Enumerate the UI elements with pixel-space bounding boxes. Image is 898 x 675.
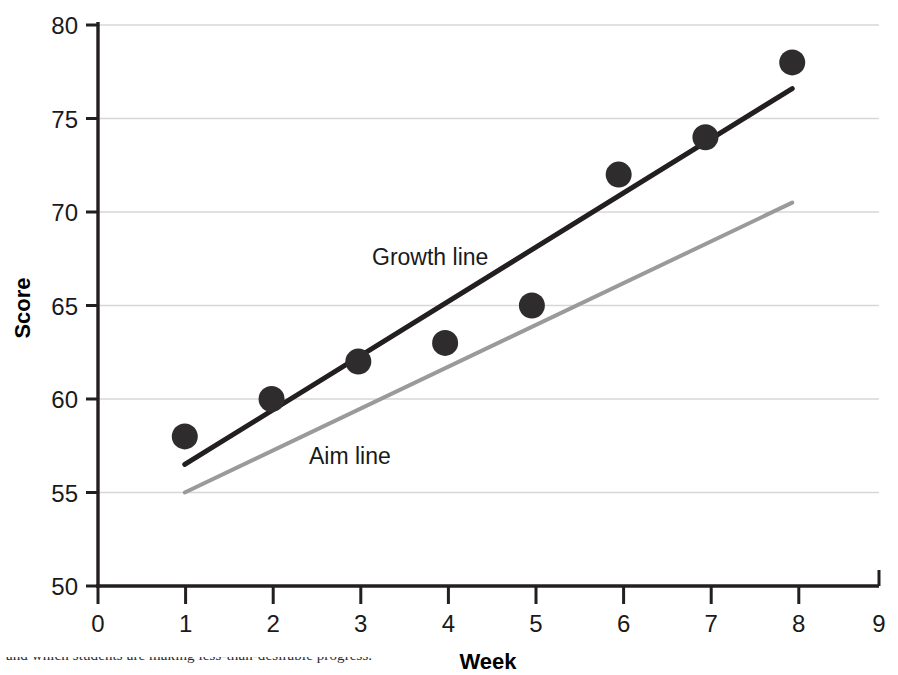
- data-point-group: [172, 49, 805, 449]
- aim-line-label: Aim line: [309, 443, 391, 469]
- chart-container: 80 75 70 65 60 55 50 0 1 2 3 4 5: [0, 0, 898, 675]
- y-axis-tick-labels: 80 75 70 65 60 55 50: [51, 12, 78, 600]
- x-tick-label-0: 0: [91, 610, 104, 637]
- data-point: [779, 49, 805, 75]
- y-tick-label-65: 65: [51, 293, 78, 320]
- growth-line-label: Growth line: [372, 244, 488, 270]
- y-axis-ticks: [86, 25, 98, 586]
- y-tick-label-80: 80: [51, 12, 78, 39]
- data-point: [519, 293, 545, 319]
- data-point: [259, 386, 285, 412]
- data-point: [692, 124, 718, 150]
- page-caption-strip: and which students are making less-than-…: [0, 657, 898, 675]
- x-tick-label-6: 6: [617, 610, 630, 637]
- x-tick-label-4: 4: [442, 610, 455, 637]
- page-caption-text: and which students are making less-than-…: [6, 657, 896, 664]
- data-point: [432, 330, 458, 356]
- x-tick-label-3: 3: [354, 610, 367, 637]
- y-tick-label-60: 60: [51, 386, 78, 413]
- x-tick-label-5: 5: [529, 610, 542, 637]
- y-tick-label-50: 50: [51, 573, 78, 600]
- y-tick-label-75: 75: [51, 106, 78, 133]
- y-axis-title: Score: [10, 277, 35, 338]
- progress-monitoring-scatter-chart: 80 75 70 65 60 55 50 0 1 2 3 4 5: [0, 0, 898, 675]
- x-axis-ticks: [98, 586, 799, 604]
- x-tick-label-2: 2: [267, 610, 280, 637]
- gridlines: [98, 25, 879, 493]
- x-tick-label-7: 7: [705, 610, 718, 637]
- y-tick-label-70: 70: [51, 199, 78, 226]
- y-tick-label-55: 55: [51, 480, 78, 507]
- x-tick-label-8: 8: [792, 610, 805, 637]
- x-tick-label-9: 9: [872, 610, 885, 637]
- aim-line: [185, 203, 792, 493]
- x-tick-label-1: 1: [179, 610, 192, 637]
- x-axis-tick-labels: 0 1 2 3 4 5 6 7 8 9: [91, 610, 885, 637]
- data-point: [606, 162, 632, 188]
- data-point: [172, 423, 198, 449]
- data-point: [345, 349, 371, 375]
